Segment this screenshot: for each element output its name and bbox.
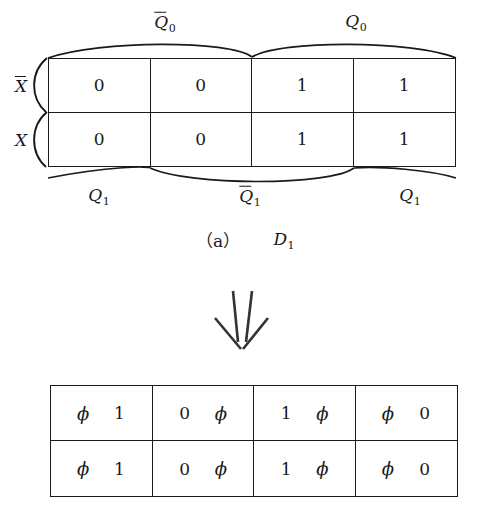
kmap-cell: 0 [49,59,151,113]
kmap-bottom-group-label-q1-left-sub: 1 [103,195,110,208]
kmap-cell: 1 [252,113,354,167]
figure-caption-symbol: D1 [273,231,294,251]
kmap-group-arc-q0 [252,44,456,58]
kmap-grid: 0 0 1 1 0 0 1 1 [48,58,456,167]
kmap-row-label-x-base: X [15,130,27,150]
table-cell-value: 1 [279,403,293,423]
kmap-top-group-label-q0-sub: 0 [360,21,367,34]
table-cell: ϕ 1 [51,386,153,441]
table-cell: ϕ 0 [356,386,458,441]
table-cell-value: ϕ [76,403,90,424]
table-cell: 0 ϕ [153,441,255,496]
transition-table: ϕ 1 0 ϕ 1 ϕ ϕ 0 ϕ 1 0 ϕ 1 ϕ ϕ 0 [50,385,458,497]
kmap-top-group-label-q0-bar-sub: 0 [169,21,176,34]
figure-canvas: Q0 Q0 X X 0 0 1 1 0 0 1 1 Q1 Q1 Q1 （a） D… [0,0,478,515]
kmap-group-arc-q1-bar [150,168,354,182]
kmap-group-arc-q1-right [354,167,456,178]
table-cell: ϕ 0 [356,441,458,496]
table-cell-value: 1 [279,459,293,479]
table-cell: 1 ϕ [254,441,356,496]
kmap-bottom-group-label-q1-right: Q1 [399,187,420,207]
kmap-bottom-group-label-q1-left: Q1 [88,187,109,207]
kmap-group-arc-q1-left [48,167,150,178]
table-cell-value: ϕ [214,458,228,479]
table-cell-value: 1 [112,459,126,479]
kmap-cell: 0 [151,59,253,113]
table-cell-value: 0 [178,459,192,479]
figure-caption-symbol-base: D [273,229,287,249]
kmap-group-arc-q0-bar [48,44,252,58]
kmap-top-group-label-q0: Q0 [345,13,366,33]
kmap-row-label-x-bar-base: X [15,77,27,95]
kmap-bottom-group-label-q1-bar-base: Q [239,187,253,205]
kmap-row-label-x: X [15,132,27,149]
table-cell-value: ϕ [76,458,90,479]
kmap-bottom-group-label-q1-right-sub: 1 [414,195,421,208]
kmap-bottom-group-label-q1-right-base: Q [399,185,413,205]
kmap-cell: 0 [151,113,253,167]
table-cell: 1 ϕ [254,386,356,441]
table-cell-value: 0 [178,403,192,423]
kmap-row-brace-x-bar [34,58,47,112]
kmap-cell: 1 [252,59,354,113]
kmap-cell: 1 [354,113,456,167]
kmap-bottom-group-label-q1-bar-sub: 1 [254,195,261,208]
kmap-row-label-x-bar: X [15,77,27,95]
table-cell: ϕ 1 [51,441,153,496]
table-cell-value: ϕ [315,458,329,479]
kmap-top-group-label-q0-bar: Q0 [154,13,175,34]
figure-caption-index-text: （a） [196,231,240,251]
kmap-top-group-label-q0-bar-base: Q [154,13,168,31]
kmap-bottom-group-label-q1-left-base: Q [88,185,102,205]
kmap-cell: 1 [354,59,456,113]
table-cell-value: 0 [418,459,432,479]
kmap-bottom-group-label-q1-bar: Q1 [239,187,260,208]
kmap-top-group-label-q0-base: Q [345,11,359,31]
table-cell: 0 ϕ [153,386,255,441]
kmap-cell: 0 [49,113,151,167]
table-cell-value: 1 [112,403,126,423]
table-cell-value: ϕ [214,403,228,424]
figure-caption-index: （a） [196,233,240,250]
table-cell-value: ϕ [381,403,395,424]
table-cell-value: ϕ [315,403,329,424]
double-down-arrow-icon [215,291,268,349]
table-cell-value: ϕ [381,458,395,479]
figure-caption-symbol-sub: 1 [288,239,295,252]
table-cell-value: 0 [418,403,432,423]
kmap-row-brace-x [34,112,47,167]
